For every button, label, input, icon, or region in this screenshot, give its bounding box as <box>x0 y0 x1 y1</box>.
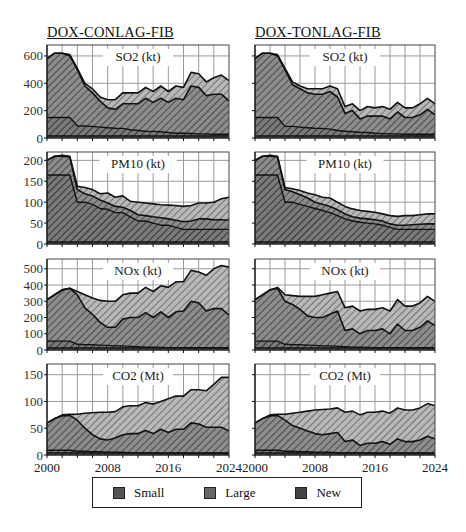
panel-title: NOx (kt) <box>321 263 368 278</box>
y-tick-label: 0 <box>37 343 44 358</box>
panel-left-nox: NOx (kt)0100200300400500 <box>24 259 230 358</box>
y-tick-label: 200 <box>24 103 44 118</box>
panel-right-so2: SO2 (kt) <box>252 45 435 141</box>
x-tick-label: 2016 <box>362 460 389 475</box>
panel-title: CO2 (Mt) <box>112 368 164 383</box>
legend-swatch-new-icon <box>295 487 307 499</box>
x-tick-label: 2024 <box>216 460 243 475</box>
x-tick-label: 2024 <box>422 460 449 475</box>
panel-title: PM10 (kt) <box>318 156 372 171</box>
legend-swatch-small-icon <box>113 487 125 499</box>
panel-right-co2: CO2 (Mt)2000200820162024 <box>242 364 449 475</box>
y-tick-label: 600 <box>24 48 44 63</box>
y-tick-label: 200 <box>24 310 44 325</box>
panel-title: SO2 (kt) <box>322 49 367 64</box>
panel-title: CO2 (Mt) <box>319 368 371 383</box>
x-tick-label: 2008 <box>95 460 121 475</box>
y-tick-label: 100 <box>24 195 44 210</box>
x-tick-label: 2000 <box>34 460 60 475</box>
panel-left-pm10: PM10 (kt)050100150200 <box>24 152 230 252</box>
legend-item-new: New <box>295 485 341 501</box>
legend-item-small: Small <box>113 485 164 501</box>
legend-item-large: Large <box>204 485 255 501</box>
panel-right-pm10: PM10 (kt) <box>252 152 435 247</box>
panel-title: NOx (kt) <box>114 263 161 278</box>
legend-label-small: Small <box>134 485 164 501</box>
x-tick-label: 2008 <box>302 460 328 475</box>
y-tick-label: 300 <box>24 294 44 309</box>
y-tick-label: 0 <box>37 237 44 252</box>
panel-title: SO2 (kt) <box>115 49 160 64</box>
y-tick-label: 100 <box>24 326 44 341</box>
y-tick-label: 150 <box>24 174 44 189</box>
y-tick-label: 50 <box>30 216 43 231</box>
panel-title: PM10 (kt) <box>111 156 165 171</box>
y-tick-label: 100 <box>24 394 44 409</box>
legend-label-new: New <box>316 485 341 501</box>
chart-area: SO2 (kt)0200400600PM10 (kt)050100150200N… <box>0 0 466 532</box>
legend-label-large: Large <box>225 485 255 501</box>
panel-right-nox: NOx (kt) <box>252 259 435 353</box>
x-tick-label: 2016 <box>155 460 182 475</box>
legend-swatch-large-icon <box>204 487 216 499</box>
y-tick-label: 0 <box>37 131 44 146</box>
y-tick-label: 500 <box>24 261 44 276</box>
y-tick-label: 200 <box>24 153 44 168</box>
y-tick-label: 50 <box>30 421 43 436</box>
y-tick-label: 150 <box>24 367 44 382</box>
y-tick-label: 400 <box>24 76 44 91</box>
x-tick-label: 2000 <box>242 460 268 475</box>
legend: Small Large New <box>92 477 362 508</box>
panel-left-so2: SO2 (kt)0200400600 <box>24 45 230 146</box>
y-tick-label: 400 <box>24 278 44 293</box>
panel-left-co2: CO2 (Mt)0501001502000200820162024 <box>24 364 243 475</box>
